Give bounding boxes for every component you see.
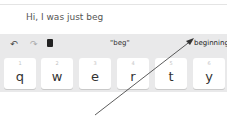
key-char: w bbox=[41, 69, 73, 84]
key-char: e bbox=[79, 69, 111, 84]
key-char: t bbox=[155, 69, 187, 84]
key-char: q bbox=[4, 69, 36, 84]
key-number: 3 bbox=[79, 60, 111, 66]
key-char: r bbox=[117, 69, 149, 84]
key-w[interactable]: 2w bbox=[41, 58, 73, 89]
text-field-value: Hi, I was just beg bbox=[26, 12, 103, 22]
key-number: 4 bbox=[117, 60, 149, 66]
key-t[interactable]: 5t bbox=[155, 58, 187, 89]
key-number: 5 bbox=[155, 60, 187, 66]
key-number: 1 bbox=[4, 60, 36, 66]
suggestion-beginning[interactable]: beginning bbox=[194, 39, 227, 47]
key-number: 6 bbox=[193, 60, 225, 66]
clipboard-icon[interactable] bbox=[47, 39, 53, 47]
keyboard: ↶ ↷ "beg" beginning 1q 2w 3e 4r 5t 6y bbox=[0, 34, 227, 92]
key-number: 2 bbox=[41, 60, 73, 66]
redo-icon[interactable]: ↷ bbox=[30, 39, 38, 49]
message-text-field[interactable]: Hi, I was just beg bbox=[0, 5, 227, 33]
suggestion-typed-word[interactable]: "beg" bbox=[110, 39, 130, 47]
key-y[interactable]: 6y bbox=[193, 58, 225, 89]
key-char: y bbox=[193, 69, 225, 84]
suggestion-bar: ↶ ↷ "beg" beginning bbox=[0, 34, 227, 54]
key-q[interactable]: 1q bbox=[4, 58, 36, 89]
key-e[interactable]: 3e bbox=[79, 58, 111, 89]
undo-icon[interactable]: ↶ bbox=[10, 39, 18, 49]
key-row: 1q 2w 3e 4r 5t 6y bbox=[0, 56, 227, 90]
key-r[interactable]: 4r bbox=[117, 58, 149, 89]
